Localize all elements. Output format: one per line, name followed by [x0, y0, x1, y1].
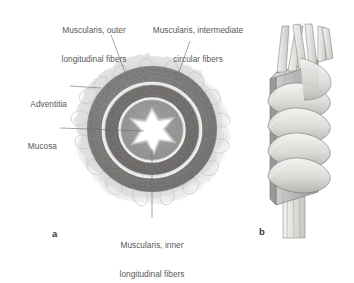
fiber-schematic-illustration	[268, 24, 333, 238]
label-mucosa-line1: Mucosa	[0, 142, 57, 152]
label-intermediate-circular-line1: Muscularis, intermediate	[143, 26, 253, 36]
label-intermediate-circular: Muscularis, intermediate circular fibers	[143, 7, 253, 84]
panel-label-b: b	[259, 226, 265, 237]
panel-label-a: a	[52, 228, 57, 239]
label-inner-longitudinal: Muscularis, inner longitudinal fibers	[97, 222, 207, 283]
label-mucosa: Mucosa	[0, 123, 57, 171]
helix-entry-strand	[300, 58, 331, 100]
label-outer-longitudinal: Muscularis, outer longitudinal fibers	[48, 7, 140, 84]
label-adventitia: Adventitia	[0, 81, 67, 129]
label-intermediate-circular-line2: circular fibers	[143, 55, 253, 65]
label-inner-longitudinal-line2: longitudinal fibers	[97, 270, 207, 280]
label-inner-longitudinal-line1: Muscularis, inner	[97, 241, 207, 251]
label-outer-longitudinal-line2: longitudinal fibers	[48, 55, 140, 65]
label-adventitia-line1: Adventitia	[0, 100, 67, 110]
label-outer-longitudinal-line1: Muscularis, outer	[48, 26, 140, 36]
